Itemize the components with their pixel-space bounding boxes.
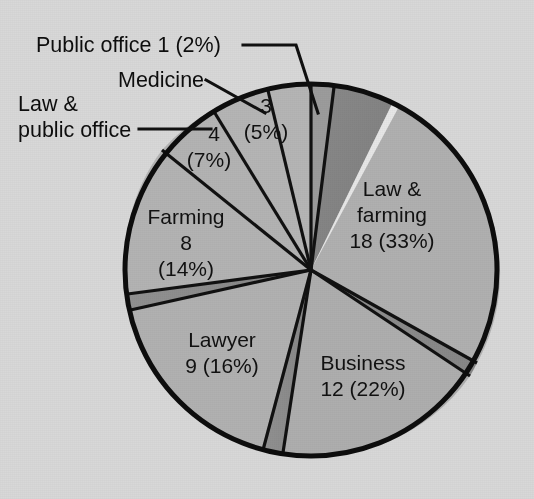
slice-label-law-farming-line1: Law & (363, 177, 421, 200)
slice-label-law-public-office-value: 4 (208, 122, 220, 145)
slice-label-farming-value: 8 (180, 231, 192, 254)
callout-public-office-label: Public office 1 (2%) (36, 33, 221, 57)
slice-label-law-public-office-percent: (7%) (187, 148, 231, 171)
slice-label-medicine-percent: (5%) (244, 120, 288, 143)
slice-label-farming-percent: (14%) (158, 257, 214, 280)
pie-chart-svg: Public office 1 (2%) Medicine Law & publ… (0, 0, 534, 499)
callout-law-public-office-line1: Law & (18, 92, 78, 116)
slice-label-law-farming-line2: farming (357, 203, 427, 226)
callout-medicine-label: Medicine (118, 68, 204, 92)
callout-law-public-office-line2: public office (18, 118, 131, 142)
slice-label-business-value: 12 (22%) (320, 377, 405, 400)
pie-chart-figure: Public office 1 (2%) Medicine Law & publ… (0, 0, 534, 499)
slice-label-lawyer-name: Lawyer (188, 328, 256, 351)
slice-label-medicine-value: 3 (260, 94, 272, 117)
slice-label-law-farming-value: 18 (33%) (349, 229, 434, 252)
slice-label-business-name: Business (320, 351, 405, 374)
slice-label-farming-name: Farming (147, 205, 224, 228)
slice-label-lawyer-value: 9 (16%) (185, 354, 259, 377)
